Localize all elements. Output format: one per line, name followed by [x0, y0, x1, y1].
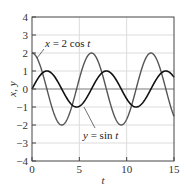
x-tick-label: 5: [77, 163, 83, 175]
y-tick-label: 2: [23, 47, 29, 59]
annotation-y-sin-t: y = sin t: [82, 129, 119, 141]
y-tick-label: 0: [23, 83, 29, 95]
x-tick-label: 15: [169, 163, 181, 175]
y-tick-label: −2: [16, 119, 28, 131]
y-tick-label: 3: [23, 29, 29, 41]
y-tick-label: −4: [16, 155, 28, 167]
chart: −4−3−2−101234 051015 t x, y x = 2 cos t …: [0, 0, 187, 191]
y-tick-label: 1: [23, 65, 29, 77]
x-tick-label: 10: [121, 163, 133, 175]
x-tick-label: 0: [29, 163, 35, 175]
x-tick-labels: 051015: [29, 163, 180, 175]
y-tick-label: 4: [23, 11, 29, 23]
x-axis-label: t: [101, 174, 105, 186]
y-tick-labels: −4−3−2−101234: [16, 11, 28, 167]
annotation-x-2cos-t: x = 2 cos t: [44, 37, 91, 49]
y-tick-label: −1: [16, 101, 28, 113]
y-tick-label: −3: [16, 137, 28, 149]
y-axis-label: x, y: [6, 81, 18, 97]
